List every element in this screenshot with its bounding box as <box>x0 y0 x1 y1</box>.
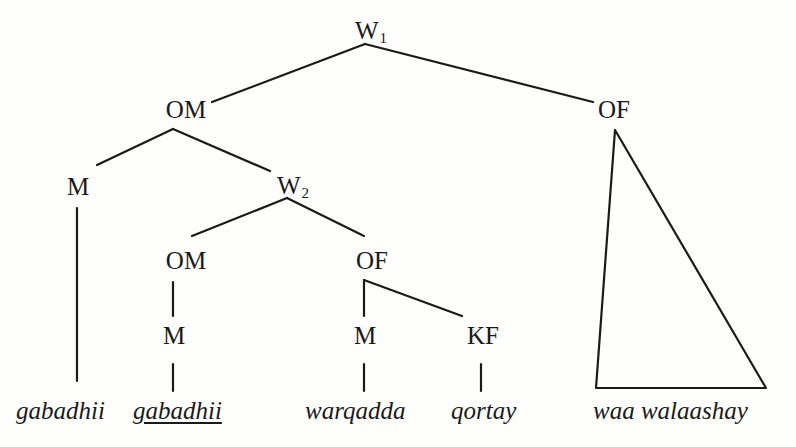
leaf-qortay: qortay <box>451 398 516 423</box>
node-kf: KF <box>467 323 499 348</box>
leaf-gabadhii-underlined: gabadhii <box>133 398 222 423</box>
edge-w2-of <box>287 198 364 236</box>
node-m-left: M <box>67 174 89 199</box>
node-om-inner: OM <box>166 248 206 273</box>
node-of-top: OF <box>598 97 630 122</box>
tree-edges <box>0 0 796 447</box>
leaf-warqadda: warqadda <box>305 398 405 423</box>
syntax-tree-diagram: W1 OM OF M W2 OM OF M M KF gabadhii gaba… <box>0 0 796 447</box>
triangle-of-constituent <box>596 130 766 388</box>
node-om-top: OM <box>166 97 206 122</box>
edge-w1-om <box>212 44 365 102</box>
node-of-inner: OF <box>356 248 388 273</box>
edge-of-kf <box>364 280 462 316</box>
edge-w1-of <box>365 44 593 102</box>
node-w1: W1 <box>355 18 387 46</box>
node-w2: W2 <box>277 173 309 201</box>
node-m-of: M <box>354 323 376 348</box>
edge-om-w2 <box>173 129 270 171</box>
edge-om-m <box>97 129 173 165</box>
leaf-gabadhii: gabadhii <box>16 398 105 423</box>
edge-w2-om <box>192 198 287 236</box>
node-m-om: M <box>163 323 185 348</box>
leaf-waa-walaashay: waa walaashay <box>593 398 748 423</box>
